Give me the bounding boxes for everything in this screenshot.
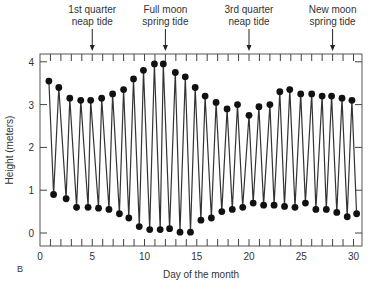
arrow-down-icon (90, 45, 95, 51)
tide-point (333, 209, 340, 216)
tide-point (73, 204, 80, 211)
tide-point (246, 112, 253, 119)
tide-point (77, 97, 84, 104)
tide-point (339, 95, 346, 102)
tide-point (234, 101, 241, 108)
moon-phase-annotations: 1st quarterneap tideFull moonspring tide… (68, 4, 356, 51)
tide-point (213, 99, 220, 106)
tide-point (106, 206, 113, 213)
y-axis-label: Height (meters) (4, 116, 15, 185)
arrow-down-icon (330, 45, 335, 51)
tide-point (353, 210, 360, 217)
tide-point (85, 204, 92, 211)
tide-point (267, 101, 274, 108)
y-tick-label: 4 (28, 57, 34, 68)
annotation-line2: neap tide (228, 16, 270, 27)
tide-point (177, 229, 184, 236)
tide-point (130, 76, 137, 83)
tide-point (63, 195, 70, 202)
tide-point (328, 93, 335, 100)
tide-line (49, 64, 357, 232)
tide-point (208, 215, 215, 222)
x-tick-label: 10 (139, 251, 151, 262)
arrow-down-icon (247, 45, 252, 51)
tide-point (166, 225, 173, 232)
tide-point (308, 91, 315, 98)
x-tick-label: 0 (37, 251, 43, 262)
annotation-line1: 1st quarter (68, 4, 116, 15)
tide-point (151, 61, 158, 68)
tide-point (198, 217, 205, 224)
tide-point (218, 208, 225, 215)
tide-point (286, 86, 293, 93)
tide-point (229, 206, 236, 213)
tide-point (187, 229, 194, 236)
tide-point (55, 84, 62, 91)
tide-point (297, 91, 304, 98)
tide-point (172, 69, 179, 76)
y-tick-label: 0 (28, 228, 34, 239)
annotation-line2: neap tide (72, 16, 114, 27)
x-tick-label: 20 (243, 251, 255, 262)
y-tick-label: 1 (28, 185, 34, 196)
tide-point (260, 202, 267, 209)
figure-label: B (17, 264, 23, 274)
tide-point (323, 206, 330, 213)
x-tick-label: 15 (191, 251, 203, 262)
x-tick-label: 25 (296, 251, 308, 262)
annotation-line2: spring tide (310, 16, 357, 27)
tide-point (120, 86, 127, 93)
tide-point (344, 213, 351, 220)
tide-point (349, 97, 356, 104)
tide-point (182, 73, 189, 80)
y-tick-label: 3 (28, 100, 34, 111)
tide-point (271, 202, 278, 209)
x-tick-label: 5 (89, 251, 95, 262)
tide-point (256, 103, 263, 110)
tide-point (202, 93, 209, 100)
annotation-line2: spring tide (142, 16, 189, 27)
tide-point (192, 84, 199, 91)
tide-point (87, 97, 94, 104)
x-tick-label: 30 (348, 251, 360, 262)
y-tick-label: 2 (28, 142, 34, 153)
tide-point (239, 204, 246, 211)
tide-point (319, 93, 326, 100)
tide-point (66, 95, 73, 102)
arrow-down-icon (163, 45, 168, 51)
tide-point (95, 205, 102, 212)
tide-point (281, 203, 288, 210)
tide-point (312, 206, 319, 213)
tide-point (45, 78, 52, 85)
tide-point (50, 191, 57, 198)
annotation-line1: Full moon (143, 4, 187, 15)
tide-point (160, 61, 167, 68)
tide-point (125, 215, 132, 222)
tide-point (224, 105, 231, 112)
tide-point (250, 200, 257, 207)
tide-point (157, 226, 164, 233)
tide-point (116, 210, 123, 217)
tide-series (45, 61, 360, 236)
tide-point (98, 95, 105, 102)
tide-point (302, 200, 309, 207)
tide-point (292, 204, 299, 211)
annotation-line1: 3rd quarter (225, 4, 275, 15)
tide-point (140, 67, 147, 74)
tide-point (136, 223, 143, 230)
tide-point (146, 226, 153, 233)
tide-point (276, 88, 283, 95)
tide-point (109, 91, 116, 98)
x-axis-label: Day of the month (163, 269, 239, 280)
tide-chart: 05101520253001234 1st quarterneap tideFu… (0, 0, 377, 286)
annotation-line1: New moon (309, 4, 357, 15)
